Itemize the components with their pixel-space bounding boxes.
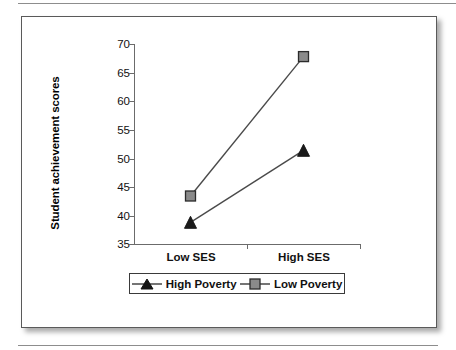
series-line-low-poverty xyxy=(191,57,304,196)
legend-entry-high-poverty: High Poverty xyxy=(132,278,237,290)
data-point-low-poverty-high-ses xyxy=(299,52,309,62)
legend-entry-low-poverty: Low Poverty xyxy=(240,278,342,290)
square-marker-icon xyxy=(240,278,270,290)
data-point-high-poverty-low-ses xyxy=(185,216,197,228)
legend-label-high-poverty: High Poverty xyxy=(166,278,237,290)
chart-legend: High Poverty Low Poverty xyxy=(129,273,345,294)
legend-label-low-poverty: Low Poverty xyxy=(274,278,342,290)
data-point-low-poverty-low-ses xyxy=(186,191,196,201)
page-rule-top xyxy=(18,3,456,4)
plot-area: Student achievement scores 70 65 60 55 5… xyxy=(22,17,438,329)
figure-frame: Student achievement scores 70 65 60 55 5… xyxy=(21,16,437,328)
page-rule-bottom xyxy=(18,345,438,346)
data-point-high-poverty-high-ses xyxy=(298,144,310,156)
series-line-high-poverty xyxy=(191,150,304,222)
triangle-marker-icon xyxy=(132,278,162,290)
